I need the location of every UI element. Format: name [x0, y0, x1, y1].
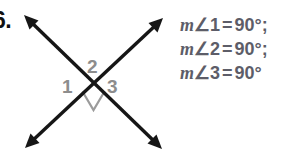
- measure-symbol: m: [180, 39, 194, 59]
- angle-symbol-icon: ∠: [194, 39, 210, 59]
- angle-index: 1: [210, 15, 220, 35]
- equals-symbol: =: [220, 39, 235, 59]
- equation-line-3: m∠3=90°: [180, 61, 289, 85]
- equation-list: m∠1=90°; m∠2=90°; m∠3=90°: [180, 13, 289, 85]
- measure-symbol: m: [180, 15, 194, 35]
- equals-symbol: =: [220, 63, 235, 83]
- equation-line-1: m∠1=90°;: [180, 13, 289, 37]
- angle-label-1: 1: [62, 77, 73, 96]
- angle-index: 2: [210, 39, 220, 59]
- angle-value: 90°: [235, 63, 262, 83]
- measure-symbol: m: [180, 63, 194, 83]
- angle-label-2: 2: [87, 57, 98, 76]
- intersecting-lines-diagram: [0, 0, 180, 159]
- equals-symbol: =: [220, 15, 235, 35]
- equation-line-2: m∠2=90°;: [180, 37, 289, 61]
- right-angle-marker-icon: [83, 92, 105, 111]
- angle-symbol-icon: ∠: [194, 15, 210, 35]
- angle-value: 90°;: [235, 15, 268, 35]
- angle-symbol-icon: ∠: [194, 63, 210, 83]
- angle-label-3: 3: [107, 77, 118, 96]
- geometry-figure-page: 6. 1 2 3 m∠1=90°; m∠2=90°; m∠3=90°: [0, 0, 289, 159]
- angle-value: 90°;: [235, 39, 268, 59]
- angle-index: 3: [210, 63, 220, 83]
